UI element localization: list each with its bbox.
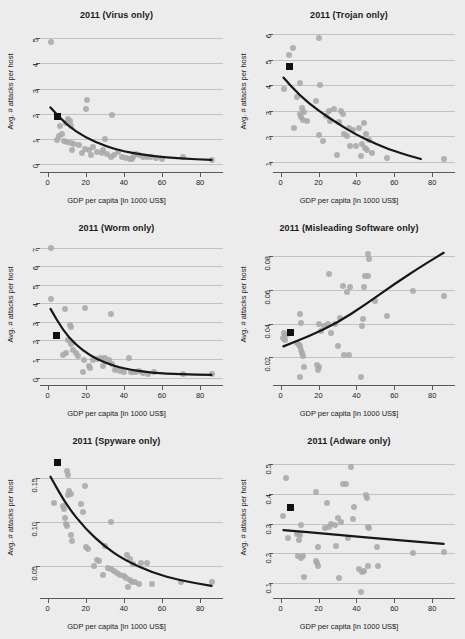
y-tick-label: 2 [31,114,40,118]
trend-line [40,454,223,599]
y-axis-label: Avg. # attacks per host [4,213,16,396]
figure-sheet: 2011 (Virus only)Avg. # attacks per host… [0,0,465,639]
panel-title: 2011 (Virus only) [0,10,233,20]
x-tick [319,386,320,390]
highlight-marker [54,459,61,466]
y-tick-label: 0.04 [264,324,273,339]
plot-canvas: 012345020406080 [40,28,223,173]
y-tick-label: 0 [31,378,40,382]
plot-area: 01234567020406080 [40,241,223,386]
y-tick-label: 0.05 [31,566,40,581]
y-axis-label-text: Avg. # attacks per host [6,479,15,555]
chart-panel-5: 2011 (Spyware only)Avg. # attacks per ho… [0,426,233,639]
trend-line [273,454,455,599]
x-tick-label: 80 [196,604,204,613]
y-tick-label: 5 [264,60,273,64]
x-tick-label: 0 [46,604,50,613]
panel-title: 2011 (Trojan only) [233,10,465,20]
x-tick-label: 40 [352,604,360,613]
trend-line [40,28,223,173]
plot-area: 0.10.20.30.40.5020406080 [273,454,455,599]
x-tick [200,173,201,177]
y-tick-label: 3 [31,89,40,93]
y-tick-label: 1 [31,359,40,363]
x-tick-label: 60 [158,604,166,613]
x-tick [86,386,87,390]
x-tick [162,599,163,603]
x-tick-label: 40 [120,178,128,187]
x-tick-label: 40 [120,391,128,400]
x-tick [281,386,282,390]
plot-area: 0.020.040.060.08020406080 [273,241,455,386]
y-tick-label: 0.2 [264,553,273,563]
y-tick-label: 1 [31,139,40,143]
y-tick-label: 2 [31,340,40,344]
y-tick-label: 0.4 [264,494,273,504]
x-tick [48,173,49,177]
highlight-marker [287,504,294,511]
y-tick-label: 0.1 [264,583,273,593]
plot-area: 012345020406080 [40,28,223,173]
y-tick-label: 6 [31,266,40,270]
y-tick-label: 0.5 [264,464,273,474]
x-tick-label: 80 [428,178,436,187]
x-tick-label: 60 [158,178,166,187]
x-tick [48,386,49,390]
x-axis-label: GDP per capita [in 1000 US$] [233,409,465,418]
trend-line [273,28,455,173]
x-tick [162,173,163,177]
x-tick [394,386,395,390]
x-tick-label: 60 [390,604,398,613]
trend-line [273,241,455,386]
chart-panel-2: 2011 (Trojan only)Avg. # attacks per hos… [233,0,465,213]
x-tick [432,173,433,177]
x-tick-label: 0 [278,178,282,187]
y-tick-label: 3 [264,111,273,115]
y-axis-label-text: Avg. # attacks per host [6,266,15,342]
y-axis-label: Avg. # attacks per host [237,426,249,609]
x-tick-label: 60 [158,391,166,400]
y-tick-label: 7 [31,248,40,252]
x-tick [200,386,201,390]
x-tick [124,386,125,390]
plot-canvas: 01234567020406080 [40,241,223,386]
x-tick-label: 60 [390,178,398,187]
x-tick-label: 0 [46,178,50,187]
x-axis-label: GDP per capita [in 1000 US$] [233,196,465,205]
highlight-marker [54,113,61,120]
x-tick-label: 40 [352,391,360,400]
x-tick [356,173,357,177]
x-tick-label: 20 [314,391,322,400]
y-tick-label: 4 [264,85,273,89]
highlight-marker [53,332,60,339]
x-tick [281,173,282,177]
x-axis-label: GDP per capita [in 1000 US$] [0,622,233,631]
x-tick [124,599,125,603]
x-tick [394,173,395,177]
plot-canvas: 123456020406080 [273,28,455,173]
y-tick-label: 4 [31,63,40,67]
x-tick-label: 80 [196,178,204,187]
x-tick-label: 20 [82,604,90,613]
plot-canvas: 0.020.040.060.08020406080 [273,241,455,386]
chart-panel-4: 2011 (Misleading Software only)Avg. # at… [233,213,465,426]
x-tick [356,599,357,603]
x-tick-label: 0 [278,391,282,400]
y-axis-label: Avg. # attacks per host [237,0,249,183]
x-tick [281,599,282,603]
panel-title: 2011 (Adware only) [233,436,465,446]
y-tick-label: 5 [31,38,40,42]
y-tick-label: 4 [31,303,40,307]
plot-area: 0.050.100.15020406080 [40,454,223,599]
x-tick-label: 0 [278,604,282,613]
chart-panel-6: 2011 (Adware only)Avg. # attacks per hos… [233,426,465,639]
x-tick [124,173,125,177]
x-tick-label: 40 [352,178,360,187]
y-tick-label: 3 [31,322,40,326]
plot-canvas: 0.050.100.15020406080 [40,454,223,599]
x-tick-label: 80 [428,604,436,613]
x-tick-label: 20 [82,178,90,187]
y-tick-label: 0.02 [264,357,273,372]
x-tick [200,599,201,603]
highlight-marker [287,329,294,336]
